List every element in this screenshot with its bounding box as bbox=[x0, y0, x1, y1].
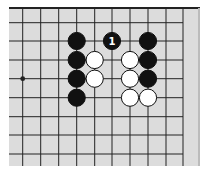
black-stone bbox=[68, 32, 85, 49]
star-point bbox=[20, 76, 25, 81]
white-stone bbox=[86, 51, 103, 68]
move-number-label: 1 bbox=[109, 36, 116, 47]
black-stone bbox=[139, 32, 156, 49]
black-stone bbox=[68, 70, 85, 87]
white-stone bbox=[121, 89, 138, 106]
white-stone bbox=[121, 51, 138, 68]
black-stone bbox=[139, 51, 156, 68]
white-stone bbox=[86, 70, 103, 87]
black-stone bbox=[139, 70, 156, 87]
white-stone bbox=[121, 70, 138, 87]
black-stone bbox=[68, 89, 85, 106]
black-stone bbox=[68, 51, 85, 68]
white-stone bbox=[139, 89, 156, 106]
board-grid-and-stones: 1 bbox=[0, 0, 205, 179]
